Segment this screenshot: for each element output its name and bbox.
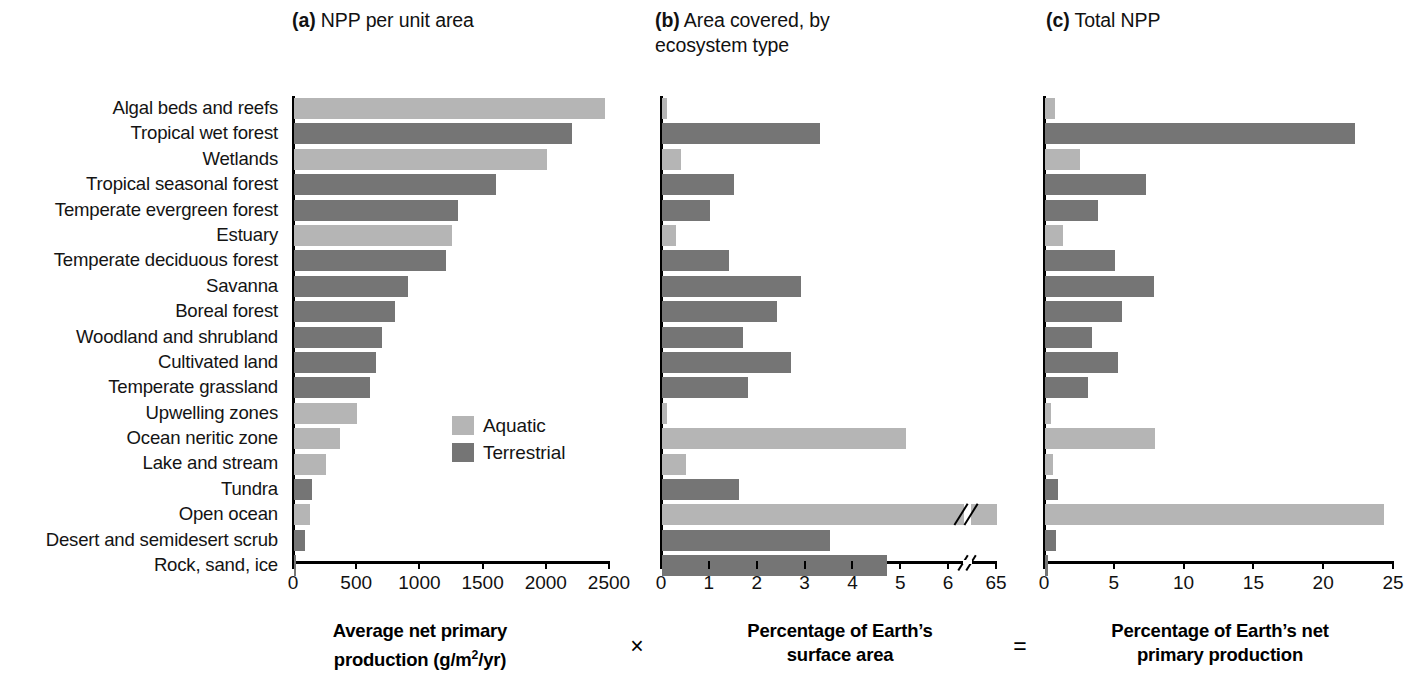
category-label: Woodland and shrubland xyxy=(0,325,283,350)
panel-a-axis-caption: Average net primary production (g/m2/yr) xyxy=(250,619,590,672)
bar xyxy=(662,174,734,195)
x-axis-tick-label: 20 xyxy=(1313,572,1334,594)
axis-break-mask xyxy=(963,560,972,564)
category-label: Tundra xyxy=(0,477,283,502)
bar xyxy=(662,250,729,271)
bar xyxy=(662,403,667,424)
bar xyxy=(662,149,681,170)
panel-a-title-text: NPP per unit area xyxy=(316,9,474,31)
category-label: Cultivated land xyxy=(0,350,283,375)
bar xyxy=(1045,327,1092,348)
x-axis-tick-label: 0 xyxy=(288,572,299,594)
bar xyxy=(294,327,382,348)
x-axis-tick xyxy=(899,561,901,569)
bar xyxy=(294,225,452,246)
bar xyxy=(294,403,357,424)
category-label: Rock, sand, ice xyxy=(0,553,283,578)
bar-break-mask xyxy=(964,504,971,525)
legend-swatch-aquatic xyxy=(452,416,474,435)
bar xyxy=(662,327,743,348)
x-axis-tick-label: 2500 xyxy=(588,572,630,594)
panel-c-axis-caption: Percentage of Earth’s net primary produc… xyxy=(1055,619,1385,667)
x-axis-tick xyxy=(418,561,420,569)
bar xyxy=(1045,403,1051,424)
bar xyxy=(294,479,312,500)
bar xyxy=(1045,123,1355,144)
x-axis-tick xyxy=(1322,561,1324,569)
x-axis-tick-label: 1500 xyxy=(461,572,503,594)
x-axis-tick xyxy=(804,561,806,569)
category-label: Tropical seasonal forest xyxy=(0,172,283,197)
x-axis-tick xyxy=(482,561,484,569)
bar xyxy=(662,479,739,500)
x-axis-tick xyxy=(708,561,710,569)
bar xyxy=(662,123,820,144)
bar xyxy=(1045,225,1063,246)
caption-a-post: /yr) xyxy=(478,649,506,670)
bar xyxy=(294,174,496,195)
equals-operator: = xyxy=(1000,633,1040,660)
x-axis-tick xyxy=(355,561,357,569)
bar xyxy=(1045,301,1122,322)
bar xyxy=(1045,98,1055,119)
panel-a-tag: (a) xyxy=(292,9,316,31)
x-axis-tick-label: 10 xyxy=(1173,572,1194,594)
x-axis-tick xyxy=(1183,561,1185,569)
bar xyxy=(1045,352,1118,373)
bar xyxy=(662,454,686,475)
x-axis-tick-label: 4 xyxy=(847,572,858,594)
bar xyxy=(1045,174,1146,195)
panel-b-plot-area: 012345665 xyxy=(660,96,995,561)
bar xyxy=(1045,454,1053,475)
bar xyxy=(1045,276,1154,297)
category-label: Upwelling zones xyxy=(0,401,283,426)
panel-c-plot-area: 0510152025 xyxy=(1043,96,1392,561)
x-axis-tick xyxy=(851,561,853,569)
x-axis-tick xyxy=(660,561,662,569)
caption-a-pre: production (g/m xyxy=(334,649,472,670)
panel-a-caption-line1: Average net primary xyxy=(250,619,590,643)
x-axis-tick-label: 0 xyxy=(1039,572,1050,594)
category-label: Temperate evergreen forest xyxy=(0,198,283,223)
x-axis-tick xyxy=(756,561,758,569)
bar xyxy=(1045,530,1056,551)
bar xyxy=(294,250,446,271)
legend-item-aquatic: Aquatic xyxy=(452,412,565,439)
panel-c-caption-line2: primary production xyxy=(1055,643,1385,667)
category-label: Algal beds and reefs xyxy=(0,96,283,121)
panel-a-x-axis xyxy=(292,561,610,564)
panel-b-axis-caption: Percentage of Earth’s surface area xyxy=(690,619,990,667)
panel-b-title: (b) Area covered, by ecosystem type xyxy=(655,8,965,58)
x-axis-tick-label: 2 xyxy=(751,572,762,594)
bar xyxy=(662,301,777,322)
category-label: Savanna xyxy=(0,274,283,299)
x-axis-tick-label: 25 xyxy=(1382,572,1403,594)
category-label: Temperate deciduous forest xyxy=(0,248,283,273)
bar xyxy=(294,301,395,322)
bar xyxy=(662,352,791,373)
npp-figure: (a) NPP per unit area (b) Area covered, … xyxy=(0,0,1414,673)
category-label: Desert and semidesert scrub xyxy=(0,528,283,553)
bar xyxy=(662,200,710,221)
legend-label-aquatic: Aquatic xyxy=(483,415,546,437)
bar xyxy=(662,530,830,551)
panel-b-title-text: Area covered, by ecosystem type xyxy=(655,9,830,56)
panel-a-title: (a) NPP per unit area xyxy=(292,8,622,33)
x-axis-tick-label: 0 xyxy=(656,572,667,594)
category-label: Temperate grassland xyxy=(0,375,283,400)
panel-b-tag: (b) xyxy=(655,9,680,31)
bar xyxy=(294,428,340,449)
legend-label-terrestrial: Terrestrial xyxy=(483,442,565,464)
x-axis-tick xyxy=(947,561,949,569)
x-axis-tick xyxy=(1392,561,1394,569)
bar xyxy=(1045,149,1080,170)
bar xyxy=(1045,377,1088,398)
panel-a-caption-line2: production (g/m2/yr) xyxy=(250,643,590,672)
bar xyxy=(1045,250,1115,271)
x-axis-tick-label: 65 xyxy=(985,572,1006,594)
x-axis-tick-label: 1 xyxy=(704,572,715,594)
x-axis-tick xyxy=(1113,561,1115,569)
bar xyxy=(1045,504,1384,525)
bar xyxy=(294,123,572,144)
panel-b-caption-line2: surface area xyxy=(690,643,990,667)
